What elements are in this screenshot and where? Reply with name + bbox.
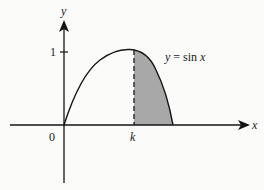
sine-area-diagram: y x 1 0 k y = sin x: [0, 0, 264, 190]
y-axis-label: y: [60, 4, 67, 18]
y-tick-label: 1: [50, 45, 56, 59]
origin-label: 0: [49, 130, 55, 144]
curve-equation-label: y = sin x: [164, 50, 206, 64]
k-label: k: [130, 130, 136, 144]
curve-label-x: x: [199, 50, 206, 64]
curve-label-eq: = sin: [170, 50, 200, 64]
x-axis-label: x: [251, 118, 258, 132]
